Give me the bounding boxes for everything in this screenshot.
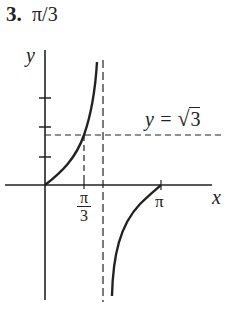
tan-curve-right-branch [112,185,161,296]
problem-answer: π/3 [32,3,58,26]
sqrt3-label: y = √3 [145,106,200,132]
x-axis-label: x [212,186,221,209]
pi-label: π [155,192,164,212]
sqrt-icon: √ [177,106,189,131]
sqrt3-label-prefix: y = [145,108,177,130]
pi-over-3-denominator: 3 [76,208,92,223]
sqrt3-radicand: 3 [189,107,200,130]
tangent-graph [0,0,237,314]
problem-number: 3. [6,2,22,27]
pi-over-3-label: π 3 [76,190,92,223]
y-axis-label: y [26,44,35,67]
pi-over-3-numerator: π [76,190,92,205]
tan-curve-left-branch [45,62,97,185]
